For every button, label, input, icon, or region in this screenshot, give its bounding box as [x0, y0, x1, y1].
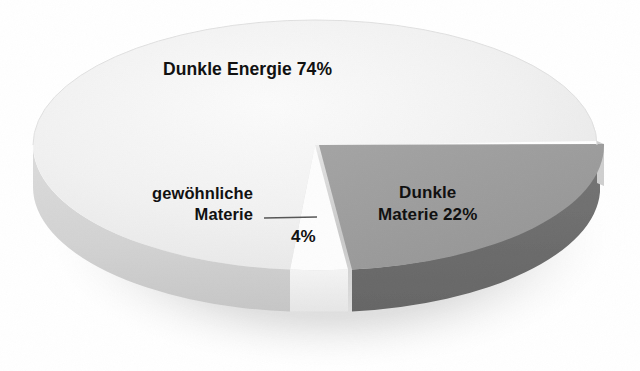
slice-label-dark-matter: Dunkle Materie 22% [378, 182, 477, 226]
slice-label-dark-matter-line2: Materie 22% [378, 204, 477, 226]
slice-label-dark-matter-line1: Dunkle [399, 183, 456, 202]
slice-label-dark-energy: Dunkle Energie 74% [163, 58, 332, 80]
slice-label-ordinary-matter-line1: gewöhnliche [152, 184, 253, 202]
pie-chart-graphic [0, 0, 640, 371]
slice-label-ordinary-matter: gewöhnliche Materie [152, 183, 253, 225]
slice-label-ordinary-matter-line2: Materie [152, 204, 253, 225]
paper-grain-overlay [0, 0, 640, 371]
pie-chart-figure: Dunkle Energie 74% Dunkle Materie 22% ge… [0, 0, 640, 371]
slice-value-label-ordinary-matter: 4% [291, 226, 316, 248]
